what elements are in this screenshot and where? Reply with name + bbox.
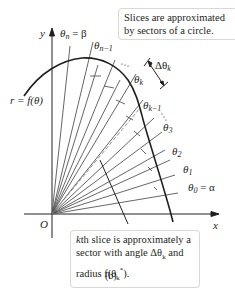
y-axis-label: y (40, 28, 45, 39)
x-axis-label: x (213, 220, 218, 231)
label-theta-0: θ0 = α (188, 182, 215, 196)
ray-theta-2 (52, 160, 170, 214)
curve-label: r = f(θ) (10, 95, 43, 106)
label-theta-k: θk (134, 74, 143, 88)
figure-caption: (b) (105, 270, 117, 281)
y-axis-arrow-icon (50, 28, 55, 36)
label-delta-theta-k: Δθk (155, 60, 171, 74)
label-theta-n: θn = β (60, 28, 87, 42)
callout-slices: Slices are approximated by sectors of a … (118, 8, 235, 40)
ray-theta-1 (52, 175, 175, 214)
origin-label: O (40, 219, 48, 230)
callout-kth-slice: kth slice is approximately a sector with… (70, 230, 200, 288)
label-theta-n-1: θn−1 (94, 40, 113, 54)
label-theta-k-1: θk−1 (143, 100, 161, 114)
label-theta-1: θ1 (183, 164, 192, 178)
x-axis-arrow-icon (211, 212, 219, 217)
label-theta-3: θ3 (163, 122, 172, 136)
ray-theta-k-star (52, 108, 140, 214)
label-theta-2: θ2 (172, 146, 181, 160)
